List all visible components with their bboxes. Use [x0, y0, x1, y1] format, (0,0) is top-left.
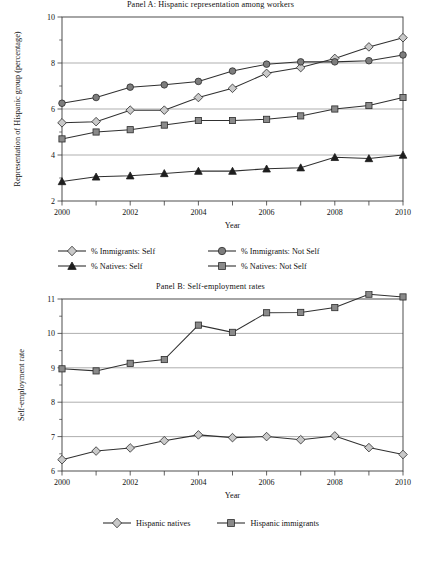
data-point-marker [297, 59, 304, 66]
data-point-marker [332, 305, 338, 311]
square-marker-icon [207, 260, 237, 272]
legend-label: % Natives: Self [91, 262, 142, 271]
data-point-marker [331, 432, 340, 441]
data-point-marker [400, 52, 407, 59]
y-tick-label: 8 [51, 398, 55, 407]
data-point-marker [264, 310, 270, 316]
data-point-marker [195, 78, 202, 85]
data-point-marker [93, 129, 99, 135]
panel-a-plot: 246810200020022004200620082010YearRepres… [0, 9, 421, 249]
data-point-marker [161, 82, 168, 89]
data-point-marker [298, 309, 304, 315]
data-point-marker [195, 117, 201, 123]
data-point-marker [127, 127, 133, 133]
y-tick-label: 11 [47, 295, 55, 304]
x-tick-label: 2002 [122, 478, 138, 487]
x-tick-label: 2006 [259, 478, 275, 487]
data-point-marker [59, 366, 65, 372]
data-point-marker [59, 136, 65, 142]
y-tick-label: 8 [51, 59, 55, 68]
panel-b-plot: 67891011200020022004200620082010YearSelf… [0, 291, 421, 519]
data-point-marker [400, 94, 406, 100]
data-point-marker [161, 356, 167, 362]
x-tick-label: 2006 [259, 208, 275, 217]
data-point-marker [366, 57, 373, 64]
y-tick-label: 10 [47, 13, 55, 22]
panel-a: Panel A: Hispanic representation among w… [0, 0, 421, 272]
data-point-marker [127, 84, 134, 91]
data-point-marker [298, 113, 304, 119]
data-point-marker [59, 100, 66, 107]
data-point-marker [365, 443, 374, 452]
x-axis-title: Year [225, 491, 241, 500]
data-point-marker [365, 43, 374, 52]
legend-label: Hispanic immigrants [250, 519, 318, 528]
x-axis-title: Year [225, 221, 241, 230]
data-point-marker [332, 106, 338, 112]
data-point-marker [93, 368, 99, 374]
series-line-1 [62, 55, 403, 103]
data-point-marker [161, 122, 167, 128]
x-tick-label: 2004 [190, 208, 206, 217]
data-point-marker [160, 106, 169, 115]
data-point-marker [229, 68, 236, 75]
panel-b-svg: 67891011200020022004200620082010YearSelf… [0, 291, 421, 519]
y-tick-label: 7 [51, 433, 55, 442]
data-point-marker [58, 119, 67, 128]
y-tick-label: 2 [51, 197, 55, 206]
x-tick-label: 2008 [327, 208, 343, 217]
x-tick-label: 2000 [54, 208, 70, 217]
data-point-marker [366, 291, 372, 297]
data-point-marker [229, 117, 235, 123]
data-point-marker [160, 436, 169, 445]
data-point-marker [228, 433, 237, 442]
panel-b-title: Panel B: Self-employment rates [0, 282, 421, 291]
panel-a-svg: 246810200020022004200620082010YearRepres… [0, 9, 421, 249]
data-point-marker [400, 294, 406, 300]
series-line-0 [62, 38, 403, 123]
data-point-marker [195, 322, 201, 328]
data-point-marker [194, 93, 203, 102]
y-tick-label: 6 [51, 105, 55, 114]
data-point-marker [332, 59, 339, 66]
y-tick-label: 4 [51, 151, 55, 160]
legend-item-natives-self[interactable]: % Natives: Self [39, 260, 207, 272]
x-tick-label: 2010 [395, 208, 411, 217]
data-point-marker [127, 360, 133, 366]
data-point-marker [262, 432, 271, 441]
data-point-marker [263, 61, 270, 68]
panel-b: Panel B: Self-employment rates 678910112… [0, 282, 421, 529]
data-point-marker [92, 447, 101, 456]
data-point-marker [399, 450, 408, 459]
x-tick-label: 2002 [122, 208, 138, 217]
legend-label: Hispanic natives [136, 519, 190, 528]
y-tick-label: 10 [47, 329, 55, 338]
data-point-marker [399, 33, 408, 42]
panel-a-title: Panel A: Hispanic representation among w… [0, 0, 421, 9]
data-point-marker [126, 106, 135, 115]
data-point-marker [264, 116, 270, 122]
y-tick-label: 9 [51, 364, 55, 373]
x-tick-label: 2000 [54, 478, 70, 487]
data-point-marker [229, 329, 235, 335]
data-point-marker [58, 455, 67, 464]
data-point-marker [92, 117, 101, 126]
data-point-marker [262, 69, 271, 78]
legend-label: % Natives: Not Self [241, 262, 307, 271]
triangle-marker-icon [57, 260, 87, 272]
y-axis-title: Representation of Hispanic group (percen… [13, 31, 22, 187]
x-tick-label: 2008 [327, 478, 343, 487]
y-axis-title: Self-employment rate [17, 349, 26, 421]
y-tick-label: 6 [51, 467, 55, 476]
x-tick-label: 2004 [190, 478, 206, 487]
panel-a-legend-row-2: % Natives: Self % Natives: Not Self [0, 260, 421, 272]
legend-item-natives-not-self[interactable]: % Natives: Not Self [207, 260, 382, 272]
data-point-marker [228, 84, 237, 93]
data-point-marker [194, 431, 203, 440]
data-point-marker [366, 102, 372, 108]
x-tick-label: 2010 [395, 478, 411, 487]
data-point-marker [126, 444, 135, 453]
data-point-marker [93, 94, 100, 101]
